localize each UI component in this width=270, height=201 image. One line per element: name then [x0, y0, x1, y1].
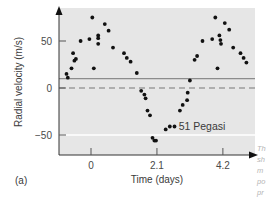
y-tick-label: 0: [46, 83, 52, 94]
x-tick-label: 0: [88, 160, 94, 171]
data-point: [219, 38, 223, 42]
data-point: [242, 56, 246, 60]
data-point: [107, 29, 111, 33]
data-point: [96, 36, 100, 40]
data-point: [70, 66, 74, 70]
data-point: [210, 37, 214, 41]
y-axis-title: Radial velocity (m/s): [13, 37, 24, 127]
data-point: [181, 103, 185, 107]
caption-line: Th: [257, 143, 266, 154]
data-point: [154, 139, 158, 143]
data-point: [71, 51, 75, 55]
data-point: [178, 109, 182, 113]
chart-annotation: 51 Pegasi: [179, 120, 226, 132]
x-tick-label: 2.1: [150, 160, 164, 171]
data-point: [223, 21, 227, 25]
data-point: [92, 66, 96, 70]
data-point: [201, 39, 205, 43]
data-point: [143, 93, 147, 97]
data-point: [188, 79, 192, 83]
data-point: [66, 76, 70, 80]
data-point: [74, 57, 78, 61]
data-point: [213, 16, 217, 20]
caption-line: po: [257, 176, 266, 187]
radial-velocity-chart: 500−50 02.14.2 Radial velocity (m/s) Tim…: [0, 0, 270, 201]
x-tick-label: 4.2: [216, 160, 230, 171]
data-point: [164, 127, 168, 131]
data-point: [239, 51, 243, 55]
data-point: [88, 37, 92, 41]
data-point: [195, 54, 199, 58]
y-tick-label: −50: [35, 130, 52, 141]
plot-background: [59, 8, 255, 155]
data-point: [146, 109, 150, 113]
data-point: [111, 46, 115, 50]
data-point: [65, 72, 69, 76]
data-point: [144, 96, 148, 100]
data-point: [148, 113, 152, 117]
data-point: [139, 89, 143, 93]
data-point: [103, 22, 107, 26]
data-point: [193, 58, 197, 62]
data-point: [122, 51, 126, 55]
side-caption-fragment: Th sh m po pr: [257, 143, 266, 198]
y-tick-label: 50: [41, 36, 53, 47]
data-point: [125, 56, 129, 60]
x-axis-title: Time (days): [131, 174, 183, 185]
data-point: [90, 16, 94, 20]
data-point: [135, 71, 139, 75]
data-point: [79, 39, 83, 43]
caption-line: sh: [257, 154, 266, 165]
data-point: [96, 42, 100, 46]
data-point: [168, 125, 172, 129]
data-point: [231, 46, 235, 50]
data-point: [216, 66, 220, 70]
data-point: [218, 34, 222, 38]
panel-label: (a): [15, 175, 27, 186]
data-point: [186, 91, 190, 95]
data-point: [185, 98, 189, 102]
data-point: [173, 125, 177, 129]
caption-line: pr: [257, 187, 266, 198]
data-point: [245, 61, 249, 65]
data-point: [227, 28, 231, 32]
caption-line: m: [257, 165, 266, 176]
data-point: [219, 42, 223, 46]
data-point: [129, 60, 133, 64]
